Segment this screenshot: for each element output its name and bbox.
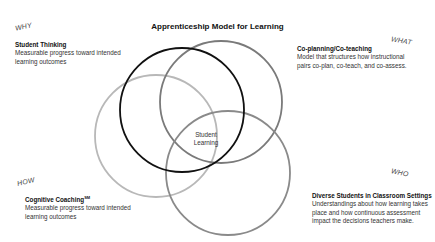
what-line1: Model that structures how instructional bbox=[297, 53, 407, 61]
why-line1: Measurable progress toward intended bbox=[15, 49, 121, 57]
center-label-line2: Learning bbox=[186, 139, 226, 147]
how-block: Cognitive CoachingSM Measurable progress… bbox=[25, 196, 131, 221]
how-heading: Cognitive CoachingSM bbox=[25, 196, 131, 204]
what-heading: Co-planning/Co-teaching bbox=[297, 45, 407, 53]
who-heading: Diverse Students in Classroom Settings bbox=[312, 192, 432, 200]
who-line1: Understandings about how learning takes bbox=[312, 200, 432, 208]
center-label: Student Learning bbox=[186, 131, 226, 148]
center-label-line1: Student bbox=[186, 131, 226, 139]
who-block: Diverse Students in Classroom Settings U… bbox=[312, 192, 432, 225]
why-circle bbox=[120, 48, 244, 172]
who-line2: place and how continuous assessment bbox=[312, 209, 432, 217]
why-block: Student Thinking Measurable progress tow… bbox=[15, 41, 121, 66]
what-line2: pairs co-plan, co-teach, and co-assess. bbox=[297, 62, 407, 70]
why-heading: Student Thinking bbox=[15, 41, 121, 49]
what-block: Co-planning/Co-teaching Model that struc… bbox=[297, 45, 407, 70]
how-line1: Measurable progress toward intended bbox=[25, 204, 131, 212]
who-circle bbox=[166, 111, 290, 235]
who-line3: impact the decisions teachers make. bbox=[312, 217, 432, 225]
service-mark: SM bbox=[84, 195, 90, 200]
why-line2: learning outcomes bbox=[15, 58, 121, 66]
how-line2: learning outcomes bbox=[25, 213, 131, 221]
